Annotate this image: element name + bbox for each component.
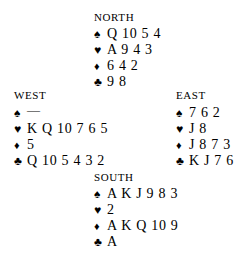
- spade-icon: ♠: [14, 105, 27, 121]
- club-icon: ♣: [176, 153, 189, 169]
- diamond-icon: ♦: [14, 137, 27, 153]
- north-club-ranks: 9 8: [107, 74, 127, 90]
- west-spade-ranks: —: [27, 102, 40, 118]
- club-icon: ♣: [14, 153, 27, 169]
- spade-icon: ♠: [94, 26, 107, 42]
- hand-west: WEST ♠ — ♥ K Q 10 7 6 5 ♦ 5 ♣ Q 10 5 4 3…: [14, 88, 108, 169]
- seat-label-south: SOUTH: [94, 170, 179, 185]
- east-diamond-row: ♦ J 8 7 3: [176, 137, 234, 153]
- spade-icon: ♠: [176, 105, 189, 121]
- east-diamond-ranks: J 8 7 3: [189, 137, 231, 153]
- west-club-ranks: Q 10 5 4 3 2: [27, 153, 105, 169]
- west-club-row: ♣ Q 10 5 4 3 2: [14, 153, 108, 169]
- west-diamond-row: ♦ 5: [14, 137, 108, 153]
- south-spade-ranks: A K J 9 8 3: [107, 186, 178, 202]
- heart-icon: ♥: [176, 121, 189, 137]
- heart-icon: ♥: [94, 202, 107, 218]
- seat-label-east: EAST: [176, 88, 234, 103]
- north-diamond-row: ♦ 6 4 2: [94, 58, 161, 74]
- north-heart-ranks: A 9 4 3: [107, 42, 153, 58]
- south-club-row: ♣ A: [94, 234, 179, 250]
- heart-icon: ♥: [14, 121, 27, 137]
- north-heart-row: ♥ A 9 4 3: [94, 42, 161, 58]
- bridge-deal-diagram: NORTH ♠ Q 10 5 4 ♥ A 9 4 3 ♦ 6 4 2 ♣ 9 8…: [0, 0, 250, 261]
- east-club-ranks: K J 7 6: [189, 153, 234, 169]
- south-spade-row: ♠ A K J 9 8 3: [94, 186, 179, 202]
- south-diamond-ranks: A K Q 10 9: [107, 218, 179, 234]
- club-icon: ♣: [94, 234, 107, 250]
- south-heart-ranks: 2: [107, 202, 115, 218]
- east-spade-row: ♠ 7 6 2: [176, 105, 234, 121]
- heart-icon: ♥: [94, 42, 107, 58]
- diamond-icon: ♦: [94, 58, 107, 74]
- west-diamond-ranks: 5: [27, 137, 35, 153]
- diamond-icon: ♦: [176, 137, 189, 153]
- hand-south: SOUTH ♠ A K J 9 8 3 ♥ 2 ♦ A K Q 10 9 ♣ A: [94, 170, 179, 250]
- hand-north: NORTH ♠ Q 10 5 4 ♥ A 9 4 3 ♦ 6 4 2 ♣ 9 8: [94, 10, 161, 90]
- west-spade-row: ♠ —: [14, 105, 108, 121]
- east-club-row: ♣ K J 7 6: [176, 153, 234, 169]
- west-heart-ranks: K Q 10 7 6 5: [27, 121, 108, 137]
- north-spade-ranks: Q 10 5 4: [107, 26, 161, 42]
- north-spade-row: ♠ Q 10 5 4: [94, 26, 161, 42]
- north-diamond-ranks: 6 4 2: [107, 58, 139, 74]
- east-heart-ranks: J 8: [189, 121, 207, 137]
- seat-label-west: WEST: [14, 88, 108, 103]
- south-diamond-row: ♦ A K Q 10 9: [94, 218, 179, 234]
- east-heart-row: ♥ J 8: [176, 121, 234, 137]
- west-heart-row: ♥ K Q 10 7 6 5: [14, 121, 108, 137]
- diamond-icon: ♦: [94, 218, 107, 234]
- south-heart-row: ♥ 2: [94, 202, 179, 218]
- spade-icon: ♠: [94, 186, 107, 202]
- hand-east: EAST ♠ 7 6 2 ♥ J 8 ♦ J 8 7 3 ♣ K J 7 6: [176, 88, 234, 169]
- south-club-ranks: A: [107, 234, 118, 250]
- seat-label-north: NORTH: [94, 10, 161, 25]
- east-spade-ranks: 7 6 2: [189, 105, 221, 121]
